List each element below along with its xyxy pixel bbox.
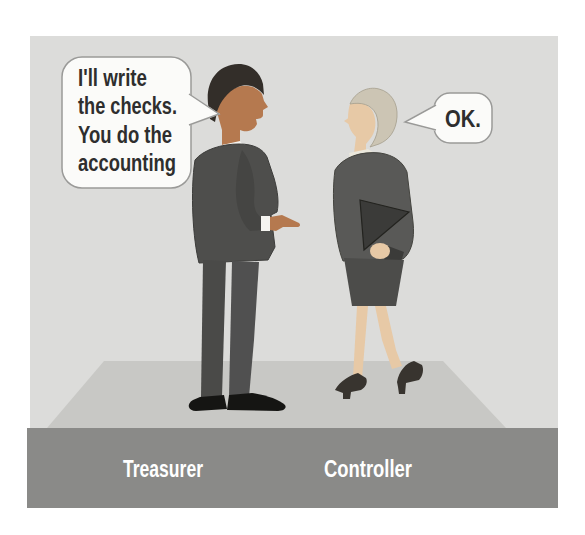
floor — [47, 361, 506, 428]
controller-label: Controller — [324, 455, 412, 482]
man-trouser-back-leg — [201, 260, 226, 397]
treasurer-controller-illustration: I'll write the checks. You do the accoun… — [0, 0, 585, 535]
label-bar — [27, 428, 558, 508]
woman-hand — [370, 243, 390, 259]
woman-skirt — [344, 258, 404, 306]
illustration-page: I'll write the checks. You do the accoun… — [0, 0, 585, 535]
controller-speech-text: OK. — [445, 105, 481, 132]
treasurer-label: Treasurer — [123, 455, 203, 482]
man-shirt-cuff — [261, 216, 270, 231]
treasurer-speech-line-4: accounting — [78, 149, 176, 176]
man-jacket — [192, 144, 278, 263]
treasurer-speech-line-1: I'll write — [78, 64, 147, 91]
treasurer-speech-line-3: You do the — [78, 121, 172, 148]
treasurer-speech-line-2: the checks. — [78, 92, 177, 119]
